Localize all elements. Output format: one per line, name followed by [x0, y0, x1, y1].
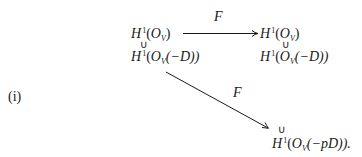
- diagonal-arrow-icon: [166, 72, 269, 128]
- horizontal-arrow-icon: [183, 31, 258, 37]
- arrows-layer: [0, 0, 362, 157]
